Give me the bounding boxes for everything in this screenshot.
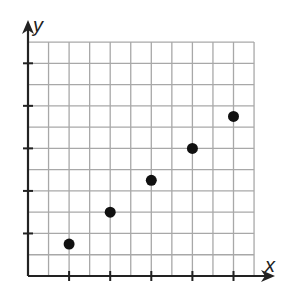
scatter-plot: x y <box>0 0 283 303</box>
data-point <box>64 239 75 250</box>
data-point <box>146 175 157 186</box>
data-point <box>105 207 116 218</box>
axis-ticks <box>23 63 234 281</box>
axes <box>22 20 275 282</box>
x-axis-label: x <box>264 254 276 276</box>
y-axis-label: y <box>31 14 44 36</box>
grid-lines <box>28 42 254 276</box>
data-point <box>228 111 239 122</box>
data-point <box>187 143 198 154</box>
